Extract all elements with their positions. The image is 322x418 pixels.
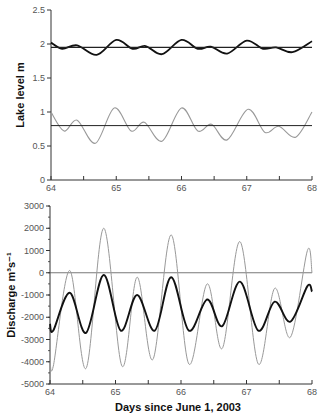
x-tick-label: 68 [307, 183, 317, 193]
y-tick-label: -4000 [21, 357, 44, 367]
series-line [50, 275, 312, 333]
x-tick-label: 66 [176, 387, 186, 397]
series-line [50, 228, 312, 371]
x-tick-label: 68 [307, 387, 317, 397]
y-tick-label: 2.5 [32, 5, 45, 15]
y-tick-label: 1 [40, 107, 45, 117]
y-tick-label: 2000 [24, 223, 44, 233]
y-tick-label: 2 [40, 39, 45, 49]
x-tick-label: 67 [242, 183, 252, 193]
y-tick-label: -3000 [21, 335, 44, 345]
bottom-y-axis-label: Discharge m³s⁻¹ [5, 252, 17, 338]
x-tick-label: 67 [241, 387, 251, 397]
x-tick-label: 65 [111, 183, 121, 193]
chart-svg: 646566676800.511.522.5 6465666768-5000-4… [0, 0, 322, 418]
x-axis-label: Days since June 1, 2003 [115, 401, 241, 413]
x-tick-label: 65 [110, 387, 120, 397]
figure: 646566676800.511.522.5 6465666768-5000-4… [0, 0, 322, 418]
discharge-panel: 6465666768-5000-4000-3000-2000-100001000… [21, 201, 317, 397]
y-tick-label: 3000 [24, 201, 44, 211]
y-tick-label: 1.5 [32, 73, 45, 83]
y-tick-label: 0 [39, 268, 44, 278]
y-tick-label: 0.5 [32, 141, 45, 151]
y-tick-label: 0 [40, 175, 45, 185]
y-tick-label: -1000 [21, 290, 44, 300]
x-tick-label: 64 [45, 387, 55, 397]
y-tick-label: -5000 [21, 379, 44, 389]
x-tick-label: 64 [46, 183, 56, 193]
y-tick-label: -2000 [21, 312, 44, 322]
top-y-axis-label: Lake level m [14, 62, 26, 128]
x-tick-label: 66 [176, 183, 186, 193]
lake-level-panel: 646566676800.511.522.5 [32, 5, 317, 193]
y-tick-label: 1000 [24, 246, 44, 256]
